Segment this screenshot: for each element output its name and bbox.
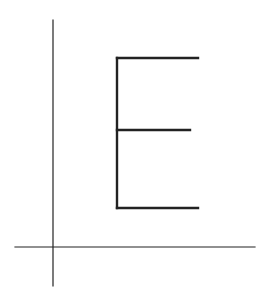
diagram-canvas (0, 0, 269, 307)
